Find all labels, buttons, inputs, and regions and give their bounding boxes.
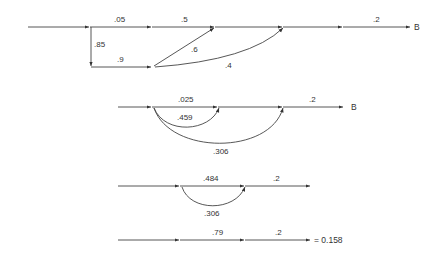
terminal-label: B (351, 103, 357, 112)
gain-label: .2 (273, 175, 280, 183)
signal-flow-graphs (0, 0, 436, 258)
gain-label: .4 (225, 62, 232, 70)
gain-label: .05 (114, 16, 125, 24)
gain-label: .85 (94, 41, 105, 49)
terminal-label: B (414, 23, 420, 32)
gain-label: .2 (309, 96, 316, 104)
diagram-3 (118, 186, 310, 206)
gain-label: .306 (213, 148, 229, 156)
gain-label: .79 (212, 229, 223, 237)
gain-label: .6 (191, 46, 198, 54)
gain-label: .2 (373, 16, 380, 24)
diagram-2 (118, 107, 343, 143)
gain-label: .9 (117, 56, 124, 64)
diagram-1 (28, 27, 410, 67)
gain-label: .2 (275, 229, 282, 237)
gain-label: .5 (181, 16, 188, 24)
gain-label: .459 (177, 114, 193, 122)
gain-label: .306 (204, 210, 220, 218)
gain-label: .484 (203, 175, 219, 183)
result-label: = 0.158 (314, 236, 343, 245)
gain-label: .025 (178, 96, 194, 104)
